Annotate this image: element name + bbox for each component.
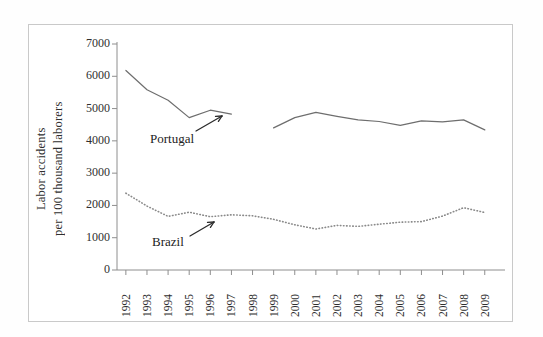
- x-tick-label: 1995: [183, 279, 195, 317]
- y-tick-label: 4000: [64, 133, 110, 148]
- y-tick-label: 1000: [64, 230, 110, 245]
- figure-canvas: Labor accidents per 100 thousand laborer…: [0, 0, 543, 337]
- x-tick-label: 2002: [331, 279, 343, 317]
- series-annotation-brazil: Brazil: [152, 234, 184, 250]
- y-tick-label: 7000: [64, 36, 110, 51]
- x-tick-label: 1998: [247, 279, 259, 317]
- series-line-portugal: [126, 71, 231, 118]
- x-tick-label: 2006: [415, 279, 427, 317]
- x-tick-label: 1992: [120, 279, 132, 317]
- series-layer: [126, 71, 485, 230]
- x-tick-label: 2001: [310, 279, 322, 317]
- series-annotation-portugal: Portugal: [150, 131, 194, 147]
- x-tick-label: 2000: [289, 279, 301, 317]
- x-tick-label: 1997: [225, 279, 237, 317]
- x-tick-label: 1996: [204, 279, 216, 317]
- y-tick-label: 0: [64, 262, 110, 277]
- series-line-portugal: [274, 112, 485, 129]
- x-tick-label: 2009: [479, 279, 491, 317]
- annotation-arrow-portugal: [196, 116, 222, 131]
- annotation-layer: [190, 116, 222, 236]
- y-tick-label: 6000: [64, 68, 110, 83]
- y-tick-label: 5000: [64, 101, 110, 116]
- x-tick-label: 2003: [352, 279, 364, 317]
- annotation-arrow-brazil: [190, 222, 214, 236]
- x-tick-label: 2008: [458, 279, 470, 317]
- x-tick-label: 2007: [437, 279, 449, 317]
- y-tick-label: 2000: [64, 197, 110, 212]
- x-tick-label: 1999: [268, 279, 280, 317]
- x-tick-label: 2005: [394, 279, 406, 317]
- y-tick-label: 3000: [64, 165, 110, 180]
- x-tick-label: 2004: [373, 279, 385, 317]
- x-tick-label: 1993: [141, 279, 153, 317]
- x-tick-label: 1994: [162, 279, 174, 317]
- series-line-brazil: [126, 193, 485, 229]
